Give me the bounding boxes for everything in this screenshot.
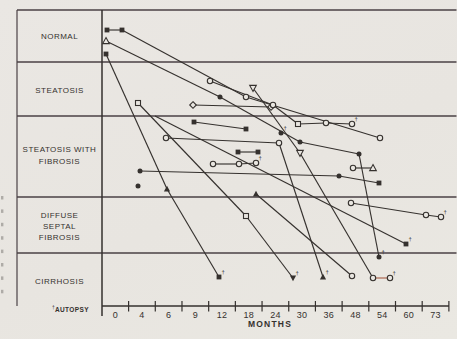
- autopsy-footnote: †AUTOPSY: [52, 304, 89, 313]
- x-tick-label: 54: [377, 310, 388, 320]
- marker-filled-circle: [136, 184, 141, 189]
- marker-open-circle: [236, 161, 241, 166]
- stage-label: STEATOSIS: [35, 86, 84, 95]
- page-edge-artifact: [1, 276, 3, 280]
- marker-filled-square: [120, 28, 125, 33]
- patient-line: [106, 54, 167, 189]
- autopsy-dagger: †: [258, 155, 261, 161]
- page-edge-artifact: [1, 196, 3, 200]
- x-tick-label: 6: [166, 310, 171, 320]
- marker-filled-square: [377, 181, 382, 186]
- stage-label: FIBROSIS: [39, 233, 80, 242]
- page-edge-artifact: [1, 209, 3, 213]
- autopsy-dagger: †: [392, 270, 395, 276]
- patient-line: [339, 176, 379, 183]
- marker-open-circle: [270, 102, 275, 107]
- marker-filled-circle: [218, 95, 223, 100]
- marker-open-triangle-up: [103, 38, 110, 44]
- page-edge-artifact: [1, 250, 3, 254]
- marker-filled-circle: [298, 140, 303, 145]
- marker-open-square: [296, 122, 301, 127]
- marker-filled-circle: [337, 174, 342, 179]
- marker-filled-square: [244, 127, 249, 132]
- marker-filled-square: [256, 150, 261, 155]
- patient-line: [220, 97, 300, 142]
- marker-filled-triangle-up: [164, 186, 170, 192]
- scanned-figure-page: 0469121824303648546073MONTHSNORMALSTEATO…: [0, 0, 457, 339]
- marker-open-diamond: [190, 102, 197, 109]
- marker-open-circle: [350, 165, 355, 170]
- autopsy-dagger: †: [283, 125, 286, 131]
- patient-line: [326, 123, 352, 124]
- x-tick-label: 73: [430, 310, 441, 320]
- patient-line: [193, 105, 271, 107]
- marker-open-circle: [323, 120, 328, 125]
- x-tick-label: 0: [113, 310, 118, 320]
- patient-line: [167, 189, 219, 277]
- autopsy-dagger: †: [221, 269, 224, 275]
- marker-open-triangle-down: [297, 150, 304, 156]
- patient-line: [256, 194, 352, 276]
- marker-open-circle: [377, 135, 382, 140]
- patient-line: [140, 171, 339, 176]
- marker-open-circle: [370, 275, 375, 280]
- stage-label: SEPTAL: [43, 222, 76, 231]
- patient-line: [210, 81, 273, 105]
- page-edge-artifact: [1, 236, 3, 240]
- patient-line: [351, 203, 426, 215]
- patient-line: [194, 122, 246, 129]
- autopsy-dagger: †: [354, 116, 357, 122]
- paper-background: [0, 0, 457, 339]
- x-tick-label: 4: [139, 310, 144, 320]
- x-axis-title: MONTHS: [248, 319, 292, 329]
- marker-open-circle: [207, 78, 212, 83]
- patient-line: [279, 143, 323, 277]
- autopsy-dagger: †: [295, 270, 298, 276]
- stage-label: NORMAL: [41, 32, 78, 41]
- autopsy-dagger: †: [443, 209, 446, 215]
- marker-open-square: [244, 214, 249, 219]
- marker-open-circle: [210, 161, 215, 166]
- autopsy-dagger: †: [325, 269, 328, 275]
- x-tick-label: 36: [324, 310, 335, 320]
- x-tick-label: 60: [404, 310, 415, 320]
- marker-filled-circle: [138, 169, 143, 174]
- stage-label: FIBROSIS: [39, 157, 80, 166]
- marker-filled-square: [192, 120, 197, 125]
- marker-open-circle: [423, 212, 428, 217]
- marker-open-circle: [276, 140, 281, 145]
- marker-open-circle: [349, 273, 354, 278]
- page-edge-artifact: [1, 223, 3, 227]
- x-tick-label: 48: [350, 310, 361, 320]
- patient-line: [298, 123, 326, 124]
- patient-line: [246, 216, 293, 278]
- autopsy-footnote-text: AUTOPSY: [55, 306, 89, 313]
- patient-line: [122, 30, 246, 97]
- patient-line: [166, 138, 279, 143]
- x-tick-label: 12: [217, 310, 228, 320]
- marker-open-square: [136, 101, 141, 106]
- marker-filled-circle: [357, 152, 362, 157]
- marker-open-circle: [348, 200, 353, 205]
- x-tick-label: 9: [193, 310, 198, 320]
- marker-open-circle: [163, 135, 168, 140]
- autopsy-dagger: †: [408, 236, 411, 242]
- patient-line: [246, 97, 380, 138]
- patient-line: [300, 142, 359, 154]
- stage-label: STEATOSIS WITH: [23, 145, 97, 154]
- marker-filled-square: [104, 52, 109, 57]
- stage-label: DIFFUSE: [41, 211, 79, 220]
- stage-label: CIRRHOSIS: [35, 277, 84, 286]
- x-tick-label: 30: [297, 310, 308, 320]
- page-edge-artifact: [1, 263, 3, 267]
- page-edge-artifact: [1, 290, 3, 294]
- marker-filled-triangle-up: [253, 191, 259, 197]
- marker-filled-square: [236, 150, 241, 155]
- patient-line: [106, 41, 220, 97]
- marker-open-circle: [243, 94, 248, 99]
- figure-chart: 0469121824303648546073MONTHSNORMALSTEATO…: [0, 0, 457, 339]
- marker-filled-square: [105, 28, 110, 33]
- autopsy-dagger: †: [381, 249, 384, 255]
